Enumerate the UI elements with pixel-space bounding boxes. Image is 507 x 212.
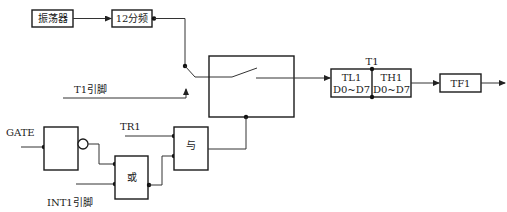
or-gate: 或 [115,156,148,199]
not-gate [44,127,78,170]
switch-blade [185,66,257,77]
oscillator-block: 振荡器 [32,10,73,27]
int1-pin-label: INT1引脚 [47,196,93,208]
tf1-label: TF1 [451,78,471,89]
or-to-and-wire [149,156,174,185]
tl1-bits: D0~D7 [333,84,370,95]
t1-pin-label: T1引脚 [74,83,107,95]
timer-title: T1 [365,56,378,67]
and-to-switch-wire [208,117,246,149]
divider-output-wire [154,19,185,65]
diagram-canvas: 振荡器 12分频 T1引脚 T1 TL1 D0~D7 TH1 D0~D7 TF1… [0,0,507,212]
not-to-or-wire [88,144,115,164]
not-bubble-icon [78,139,88,149]
tl1-label: TL1 [342,72,362,83]
timer-t1-block: T1 TL1 D0~D7 TH1 D0~D7 [331,56,411,99]
or-gate-label: 或 [127,172,137,183]
divider-block: 12分频 [112,10,152,27]
th1-label: TH1 [381,72,403,83]
tf1-block: TF1 [440,74,481,92]
oscillator-label: 振荡器 [38,12,68,24]
th1-bits: D0~D7 [373,84,410,95]
tr1-label: TR1 [120,121,141,132]
gate-label: GATE [6,127,35,138]
divider-label: 12分频 [116,12,149,24]
control-switch-box [209,56,294,117]
and-gate-label: 与 [186,140,196,151]
and-gate: 与 [174,127,208,170]
